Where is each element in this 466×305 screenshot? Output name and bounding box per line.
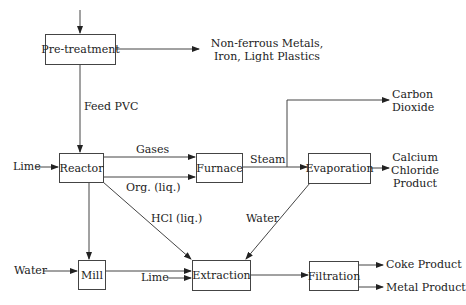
label-nonferrous: Non-ferrous Metals, Iron, Light Plastics: [202, 37, 332, 63]
node-label: Extraction: [192, 269, 250, 282]
label-nonferrous-line2: Iron, Light Plastics: [202, 50, 332, 63]
label-lime-reactor: Lime: [13, 160, 41, 173]
node-mill: Mill: [78, 260, 106, 290]
node-pretreatment: Pre-treatment: [45, 34, 116, 65]
label-steam: Steam: [250, 153, 285, 166]
node-label: Mill: [81, 269, 103, 282]
node-reactor: Reactor: [59, 153, 104, 183]
node-label: Evaporation: [306, 162, 374, 175]
label-water-mill: Water: [14, 264, 47, 277]
label-calcium-line3: Product: [390, 177, 440, 190]
node-evaporation: Evaporation: [308, 153, 371, 184]
node-furnace: Furnace: [196, 153, 243, 183]
label-carbon-dioxide: Carbon Dioxide: [392, 88, 434, 114]
label-carbon-line2: Dioxide: [392, 101, 434, 114]
label-org-liq: Org. (liq.): [126, 181, 180, 194]
node-extraction: Extraction: [192, 260, 251, 291]
label-gases: Gases: [136, 143, 169, 156]
label-calcium-chloride: Calcium Chloride Product: [390, 151, 440, 190]
label-water-evap: Water: [246, 212, 279, 225]
label-carbon-line1: Carbon: [392, 88, 434, 101]
node-label: Pre-treatment: [41, 43, 120, 56]
label-nonferrous-line1: Non-ferrous Metals,: [202, 37, 332, 50]
label-calcium-line2: Chloride: [390, 164, 440, 177]
label-hcl-liq: HCl (liq.): [151, 212, 202, 225]
label-feed-pvc: Feed PVC: [84, 100, 138, 113]
label-coke-product: Coke Product: [386, 258, 462, 271]
label-lime-extraction: Lime: [141, 271, 169, 284]
label-metal-product: Metal Product: [386, 281, 466, 294]
label-calcium-line1: Calcium: [390, 151, 440, 164]
node-label: Reactor: [60, 162, 104, 175]
node-filtration: Filtration: [309, 261, 359, 291]
node-label: Filtration: [308, 270, 361, 283]
node-label: Furnace: [196, 162, 242, 175]
